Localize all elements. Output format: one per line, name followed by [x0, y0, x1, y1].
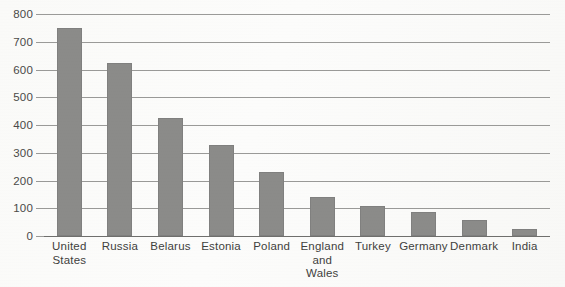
x-axis-labels: United StatesRussiaBelarusEstoniaPolandE…	[44, 240, 550, 286]
x-axis-label: India	[499, 240, 550, 254]
y-tick-label: 800	[13, 8, 33, 20]
y-tick-mark-200	[36, 181, 44, 182]
y-tick-label: 400	[13, 119, 33, 131]
y-tick-mark-500	[36, 97, 44, 98]
bar	[107, 63, 132, 236]
y-tick-mark-400	[36, 125, 44, 126]
y-tick-label: 0	[26, 230, 33, 242]
y-tick-mark-0	[36, 236, 44, 237]
x-axis-label: Germany	[398, 240, 449, 254]
y-tick-label: 100	[13, 202, 33, 214]
x-axis-label: England and Wales	[297, 240, 348, 281]
x-axis-label: United States	[44, 240, 95, 267]
x-axis-label: Belarus	[145, 240, 196, 254]
y-tick-label: 500	[13, 91, 33, 103]
y-tick-mark-800	[36, 14, 44, 15]
x-axis-label: Russia	[95, 240, 146, 254]
x-axis-label: Poland	[246, 240, 297, 254]
plot-area: 8007006005004003002001000	[44, 14, 550, 236]
y-tick-label: 700	[13, 36, 33, 48]
x-axis-label: Turkey	[348, 240, 399, 254]
y-tick-mark-100	[36, 208, 44, 209]
bar	[462, 220, 487, 236]
bar	[411, 212, 436, 236]
bars-group	[44, 14, 550, 236]
y-tick-label: 300	[13, 147, 33, 159]
bar	[360, 206, 385, 236]
chart-page: 8007006005004003002001000 United StatesR…	[0, 0, 565, 287]
y-tick-mark-300	[36, 153, 44, 154]
bar	[158, 118, 183, 236]
bar	[310, 197, 335, 236]
y-tick-label: 600	[13, 64, 33, 76]
y-tick-label: 200	[13, 175, 33, 187]
bar	[259, 172, 284, 236]
bar	[57, 28, 82, 236]
bar	[512, 229, 537, 236]
y-tick-mark-700	[36, 42, 44, 43]
gridline-0	[44, 236, 550, 237]
y-tick-mark-600	[36, 70, 44, 71]
x-axis-label: Estonia	[196, 240, 247, 254]
bar	[209, 145, 234, 236]
x-axis-label: Denmark	[449, 240, 500, 254]
